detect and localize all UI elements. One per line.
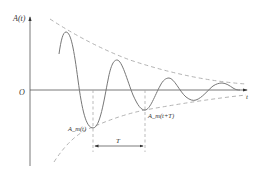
origin-label: O xyxy=(19,88,25,97)
trough-label-t-plus-T: A_m(t+T) xyxy=(147,112,174,120)
x-axis-label: t xyxy=(246,93,249,101)
damped-oscillation-diagram: A(t) O t A_m(t) A_m(t+T) T xyxy=(0,0,260,176)
period-label: T xyxy=(116,137,121,145)
y-axis-label: A(t) xyxy=(12,14,26,23)
upper-envelope xyxy=(50,19,246,84)
trough-label-t: A_m(t) xyxy=(67,125,86,133)
